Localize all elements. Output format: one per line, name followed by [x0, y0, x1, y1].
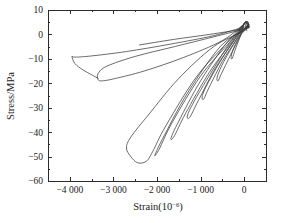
stress-strain-figure: −4 000−3 000−2 000−1 0000100−10−20−30−40… — [0, 0, 282, 223]
x-tick-label: −2 000 — [144, 185, 171, 195]
y-tick-label: 10 — [34, 5, 44, 15]
chart-canvas: −4 000−3 000−2 000−1 0000100−10−20−30−40… — [0, 0, 282, 223]
x-tick-label: −1 000 — [187, 185, 214, 195]
y-tick-label: −30 — [28, 103, 43, 113]
x-tick-label: 0 — [242, 185, 247, 195]
y-axis-label: Stress/MPa — [5, 72, 16, 120]
y-tick-label: −10 — [28, 54, 43, 64]
y-tick-label: 0 — [38, 30, 43, 40]
y-tick-label: −40 — [28, 128, 43, 138]
y-tick-label: −50 — [28, 152, 43, 162]
hysteresis-curves — [72, 22, 250, 164]
x-tick-label: −3 000 — [100, 185, 127, 195]
x-tick-label: −4 000 — [56, 185, 83, 195]
x-axis-label: Strain(10−6) — [133, 201, 183, 214]
y-tick-label: −60 — [28, 176, 43, 186]
y-tick-label: −20 — [28, 79, 43, 89]
